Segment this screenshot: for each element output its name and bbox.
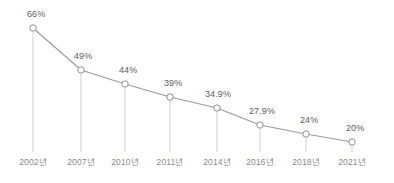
data-point-label: 39% <box>164 78 182 88</box>
data-point-label: 24% <box>300 115 318 125</box>
data-point-marker[interactable] <box>30 25 36 31</box>
line-chart: 66%49%44%39%34.9%27.9%24%20% 2002년2007년2… <box>0 0 394 183</box>
data-point-marker[interactable] <box>303 131 309 137</box>
x-axis-tick-label: 2002년 <box>19 157 46 167</box>
data-point-label: 20% <box>346 123 364 133</box>
data-point-label: 44% <box>119 65 137 75</box>
data-point-marker[interactable] <box>214 105 220 111</box>
data-point-marker[interactable] <box>122 81 128 87</box>
x-axis-tick-label: 2016년 <box>246 157 273 167</box>
x-axis-tick-label: 2010년 <box>111 157 138 167</box>
data-point-label: 66% <box>27 9 45 19</box>
x-axis-tick-label: 2018년 <box>292 157 319 167</box>
data-point-label: 49% <box>74 51 92 61</box>
data-point-marker[interactable] <box>167 94 173 100</box>
data-point-marker[interactable] <box>349 139 355 145</box>
data-point-marker[interactable] <box>78 67 84 73</box>
x-axis-tick-label: 2021년 <box>338 157 365 167</box>
x-axis-tick-label: 2014년 <box>203 157 230 167</box>
data-point-label: 27.9% <box>249 106 275 116</box>
chart-plot-area <box>0 0 394 183</box>
x-axis-tick-label: 2007년 <box>67 157 94 167</box>
marker-group <box>30 25 355 145</box>
x-axis-tick-label: 2011년 <box>157 157 184 167</box>
data-point-label: 34.9% <box>205 89 231 99</box>
data-point-marker[interactable] <box>257 122 263 128</box>
